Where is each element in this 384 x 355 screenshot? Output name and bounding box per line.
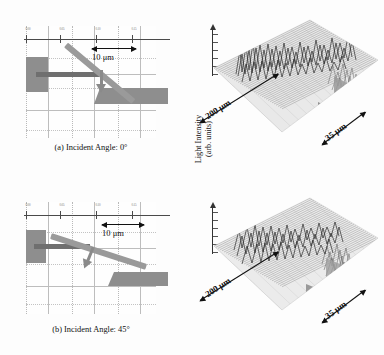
substrate-slab xyxy=(108,272,168,286)
gridline-v xyxy=(140,26,141,138)
figure-root: 0.00 0.05 0.10 0.15 10 μm (a) Incident A… xyxy=(0,0,384,355)
z-axis-label-line1: Light Intensity xyxy=(194,115,203,163)
gridline-h xyxy=(26,304,156,305)
panel-a: 0.00 0.05 0.10 0.15 10 μm (a) Incident A… xyxy=(0,0,384,177)
gridline-v xyxy=(140,202,141,314)
axis-tick xyxy=(132,211,133,219)
gridline-v xyxy=(72,26,73,138)
z-axis-label: Light Intensity (arb. units) xyxy=(194,86,210,192)
axis-tick xyxy=(26,35,27,43)
top-axis-line xyxy=(24,39,170,40)
axis-tick-label: 0.10 xyxy=(95,203,100,207)
waveguide-core-bar xyxy=(36,72,100,77)
panel-b: 0.00 0.05 0.10 0.15 10 μm (b) Incident A… xyxy=(0,178,384,355)
z-axis-label-line2: (arb. units) xyxy=(204,0,214,14)
gridline-v xyxy=(94,26,95,138)
axis-tick xyxy=(26,211,27,219)
surface-plot-a: Light Intensity (arb. units) xyxy=(186,4,384,154)
axis-tick-label: 0.05 xyxy=(59,203,64,207)
gridline-v xyxy=(118,26,119,138)
axis-tick-label: 0.00 xyxy=(25,203,30,207)
gridline-v xyxy=(94,202,95,314)
axis-tick xyxy=(60,35,61,43)
axis-tick xyxy=(132,35,133,43)
axis-tick-label: 0.05 xyxy=(59,27,64,31)
gridline-v xyxy=(72,202,73,314)
gridline-h xyxy=(26,286,156,287)
panel-caption-b: (b) Incident Angle: 45° xyxy=(0,325,182,334)
axis-tick xyxy=(60,211,61,219)
surface-plot-b: Light Intensity (arb. units) xyxy=(186,182,384,332)
scale-bar-label: 10 μm xyxy=(92,52,114,62)
surface-mesh-b xyxy=(206,194,382,318)
axis-tick xyxy=(96,211,97,219)
z-axis-label: Light Intensity (arb. units) xyxy=(194,0,210,14)
axis-tick xyxy=(96,35,97,43)
scale-bar xyxy=(102,224,144,225)
gridline-v xyxy=(48,26,49,138)
gridline-h xyxy=(26,130,156,131)
gridline-h xyxy=(26,110,156,111)
axis-tick-label: 0.15 xyxy=(131,27,136,31)
panel-caption-a: (a) Incident Angle: 0° xyxy=(0,143,182,152)
axis-tick-label: 0.10 xyxy=(95,27,100,31)
top-axis-line xyxy=(24,215,170,216)
schematic-a: 0.00 0.05 0.10 0.15 10 μm xyxy=(26,26,156,138)
surface-mesh-a xyxy=(206,16,382,140)
scale-bar-label: 10 μm xyxy=(102,228,124,238)
schematic-b: 0.00 0.05 0.10 0.15 10 μm xyxy=(26,202,156,314)
axis-tick-label: 0.15 xyxy=(131,203,136,207)
axis-tick-label: 0.00 xyxy=(25,27,30,31)
z-axis-label-line2: (arb. units) xyxy=(204,86,214,192)
scale-bar xyxy=(92,48,136,49)
gridline-v xyxy=(48,202,49,314)
